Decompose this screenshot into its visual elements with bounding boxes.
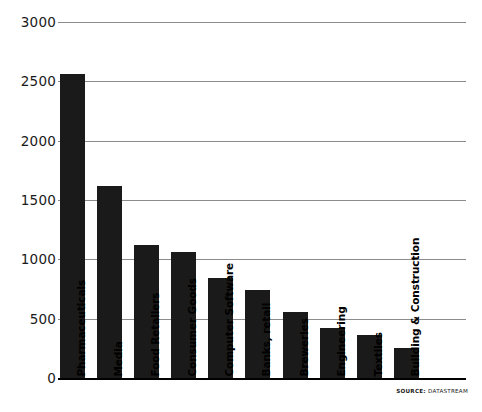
source-value: DATASTREAM (428, 388, 468, 394)
category-label: Building & Construction (409, 237, 420, 376)
plot-area: PharmaceuticalsMediaFood RetailersConsum… (58, 22, 466, 378)
y-tick-label-1500: 1500 (0, 194, 56, 208)
category-label: Consumer Goods (187, 278, 198, 376)
category-label: Banks, retail (261, 302, 272, 376)
category-label: Textiles (372, 332, 383, 376)
y-tick-label-2500: 2500 (0, 75, 56, 89)
y-tick-label-2000: 2000 (0, 135, 56, 149)
category-label: Media (113, 341, 124, 376)
category-label: Pharmaceuticals (76, 279, 87, 376)
y-tick-label-0: 0 (0, 372, 56, 386)
bar-chart: PharmaceuticalsMediaFood RetailersConsum… (0, 0, 482, 412)
gridline-2500 (58, 81, 466, 82)
y-tick-label-3000: 3000 (0, 16, 56, 30)
axis-baseline (58, 378, 466, 380)
y-tick-label-500: 500 (0, 313, 56, 327)
category-label: Food Retailers (150, 292, 161, 376)
source-attribution: SOURCE: DATASTREAM (396, 388, 468, 395)
category-label: Breweries (298, 318, 309, 376)
category-label: Computer Software (224, 262, 235, 376)
category-label: Engineering (335, 306, 346, 376)
gridline-3000 (58, 22, 466, 23)
gridline-2000 (58, 141, 466, 142)
source-label: SOURCE: (396, 388, 426, 394)
y-tick-label-1000: 1000 (0, 253, 56, 267)
